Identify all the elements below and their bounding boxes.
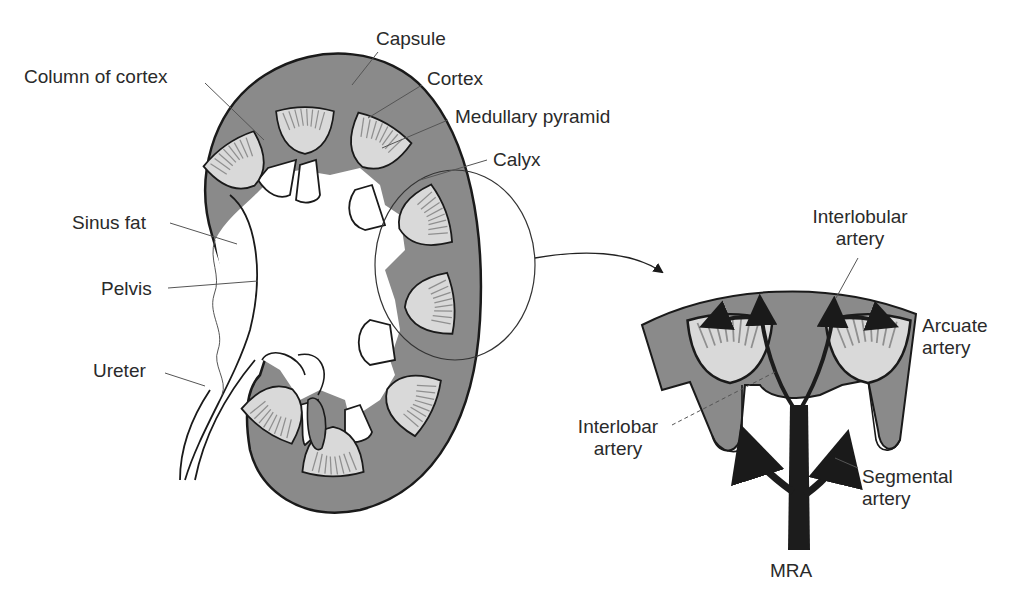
label-mra: MRA: [770, 560, 812, 582]
label-segmental-artery: Segmental artery: [862, 466, 953, 510]
label-cortex: Cortex: [427, 68, 483, 90]
magnify-arrow: [535, 253, 662, 272]
label-ureter: Ureter: [93, 360, 146, 382]
label-medullary-pyramid: Medullary pyramid: [455, 106, 610, 128]
lobe-detail: [642, 291, 916, 550]
label-column-of-cortex: Column of cortex: [24, 66, 168, 88]
label-sinus-fat: Sinus fat: [72, 212, 146, 234]
diagram-canvas: [0, 0, 1029, 607]
kidney-anatomy-diagram: Capsule Column of cortex Cortex Medullar…: [0, 0, 1029, 607]
main-renal-artery: [788, 405, 810, 550]
label-calyx: Calyx: [493, 149, 541, 171]
label-capsule: Capsule: [376, 28, 446, 50]
label-arcuate-artery: Arcuate artery: [922, 315, 987, 359]
ureter: [180, 390, 210, 480]
label-pelvis: Pelvis: [101, 278, 152, 300]
label-interlobular-artery: Interlobular artery: [800, 206, 920, 250]
label-interlobar-artery: Interlobar artery: [568, 416, 668, 460]
